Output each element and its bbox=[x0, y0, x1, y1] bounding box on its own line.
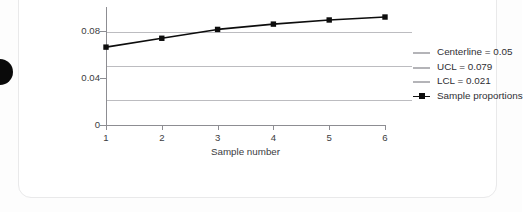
data-point-marker bbox=[271, 21, 276, 26]
legend-label: Centerline = 0.05 bbox=[437, 46, 513, 57]
legend-item-lcl: LCL = 0.021 bbox=[413, 75, 527, 90]
x-tick-mark bbox=[385, 125, 386, 130]
data-point-marker bbox=[382, 14, 387, 19]
data-point-marker bbox=[215, 27, 220, 32]
x-axis-title: Sample number bbox=[106, 146, 385, 157]
page-edge-dot bbox=[0, 59, 13, 85]
chart-legend: Centerline = 0.05 UCL = 0.079 LCL = 0.02… bbox=[413, 46, 527, 104]
legend-item-centerline: Centerline = 0.05 bbox=[413, 46, 527, 61]
y-tick-label: 0.08 bbox=[70, 25, 100, 36]
x-tick-label: 1 bbox=[96, 132, 116, 143]
x-tick-label: 6 bbox=[375, 132, 395, 143]
legend-label: UCL = 0.079 bbox=[437, 61, 492, 72]
data-point-marker bbox=[327, 17, 332, 22]
legend-label: LCL = 0.021 bbox=[437, 75, 491, 86]
x-tick-label: 2 bbox=[152, 132, 172, 143]
y-tick-label: 0.04 bbox=[70, 72, 100, 83]
data-point-marker bbox=[159, 36, 164, 41]
legend-swatch-line-icon bbox=[413, 52, 430, 54]
legend-swatch-line-icon bbox=[413, 67, 430, 69]
series-sample-proportions bbox=[106, 7, 385, 126]
figure-card: FIGURE 7.11Proportion of defects 0 0.04 … bbox=[18, 0, 497, 198]
legend-item-sample-proportions: Sample proportions bbox=[413, 90, 527, 105]
data-point-marker bbox=[103, 44, 108, 49]
legend-item-ucl: UCL = 0.079 bbox=[413, 61, 527, 76]
legend-swatch-line-icon bbox=[413, 81, 430, 83]
legend-label: Sample proportions bbox=[437, 90, 523, 101]
x-tick-label: 4 bbox=[263, 132, 283, 143]
x-tick-label: 3 bbox=[208, 132, 228, 143]
legend-swatch-square-marker-icon bbox=[419, 93, 425, 99]
x-tick-label: 5 bbox=[319, 132, 339, 143]
control-chart: 0 0.04 0.08 1 2 3 4 5 6 Sample number bbox=[76, 7, 506, 157]
y-tick-labels: 0 0.04 0.08 bbox=[64, 7, 100, 126]
y-tick-label: 0 bbox=[70, 119, 100, 130]
